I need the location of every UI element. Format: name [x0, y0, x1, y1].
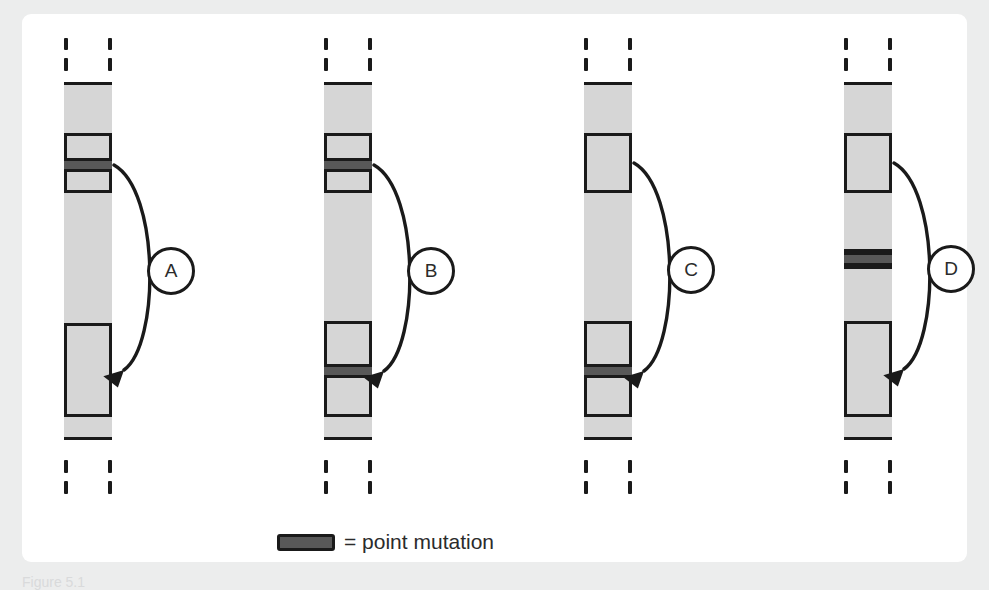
chromosome-a-medium-band-5	[64, 326, 112, 414]
chromosome-a-top-break-marks	[64, 38, 112, 76]
chromosome-b-medium-band-3	[324, 172, 372, 190]
legend: = point mutation	[277, 530, 494, 554]
chromosome-d-top-break-marks	[844, 38, 892, 76]
chromosome-c-light-band-2	[584, 190, 632, 324]
chromosome-d-bottom-break-marks	[844, 460, 892, 500]
chromosome-label-text: D	[944, 258, 958, 280]
chromosome-b-point-mutation-band-6	[324, 364, 372, 378]
chromosome-d-light-band-0	[844, 82, 892, 136]
chromosome-d-light-band-6	[844, 414, 892, 440]
chromosome-c-body	[584, 82, 632, 440]
chromosome-d-medium-band-5	[844, 324, 892, 414]
chromosome-c-point-mutation-band-4	[584, 364, 632, 378]
chromosome-a: A	[48, 14, 238, 534]
chromosome-d-medium-band-1	[844, 136, 892, 190]
chromosome-label-c: C	[667, 246, 715, 294]
chromosome-a-light-band-0	[64, 82, 112, 136]
chromosome-d: D	[828, 14, 989, 534]
chromosome-d-point-mutation-band-3	[844, 252, 892, 266]
chromosome-a-medium-band-1	[64, 136, 112, 158]
chromosome-label-text: B	[425, 260, 438, 282]
chromosome-c-bottom-break-marks	[584, 460, 632, 500]
chromosome-b-bottom-break-marks	[324, 460, 372, 500]
chromosome-c-medium-band-5	[584, 378, 632, 414]
chromosome-c-light-band-6	[584, 414, 632, 440]
chromosome-c-medium-band-1	[584, 136, 632, 190]
chromosome-a-bottom-break-marks	[64, 460, 112, 500]
chromosome-a-light-band-4	[64, 190, 112, 326]
chromosome-b-light-band-0	[324, 82, 372, 136]
chromosome-c: C	[568, 14, 758, 534]
chromosome-label-d: D	[927, 245, 975, 293]
chromosome-b-medium-band-5	[324, 324, 372, 364]
figure-caption: Figure 5.1	[22, 574, 85, 590]
chromosome-b-light-band-8	[324, 414, 372, 440]
chromosome-b-top-break-marks	[324, 38, 372, 76]
chromosome-a-medium-band-3	[64, 172, 112, 190]
chromosome-d-body	[844, 82, 892, 440]
chromosome-c-medium-band-3	[584, 324, 632, 364]
chromosome-b-medium-band-7	[324, 378, 372, 414]
chromosome-label-text: C	[684, 259, 698, 281]
chromosome-a-body	[64, 82, 112, 440]
chromosome-d-light-band-4	[844, 266, 892, 324]
legend-label: = point mutation	[344, 530, 494, 554]
point-mutation-swatch	[277, 534, 335, 551]
chromosome-d-light-band-2	[844, 190, 892, 252]
chromosome-label-text: A	[165, 260, 178, 282]
chromosome-b-medium-band-1	[324, 136, 372, 158]
chromosome-a-light-band-6	[64, 414, 112, 440]
chromosome-label-a: A	[147, 247, 195, 295]
chromosome-c-light-band-0	[584, 82, 632, 136]
chromosome-b: B	[308, 14, 498, 534]
chromosome-c-top-break-marks	[584, 38, 632, 76]
chromosome-label-b: B	[407, 247, 455, 295]
chromosome-b-light-band-4	[324, 190, 372, 324]
chromosome-b-point-mutation-band-2	[324, 158, 372, 172]
chromosome-a-point-mutation-band-2	[64, 158, 112, 172]
chromosome-b-body	[324, 82, 372, 440]
figure-card: ABCD = point mutation	[22, 14, 967, 562]
